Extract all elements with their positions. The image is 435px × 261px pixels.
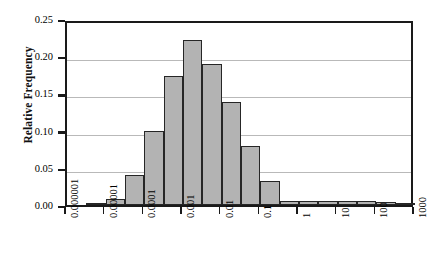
- histogram-bar: [396, 203, 415, 205]
- y-axis-tick: [58, 169, 65, 171]
- histogram-bar: [202, 64, 221, 205]
- y-axis-tick-label: 0.20: [0, 51, 53, 62]
- histogram-bar: [260, 181, 279, 205]
- y-axis-tick: [58, 94, 65, 96]
- x-axis-tick: [335, 207, 337, 214]
- x-axis-tick: [142, 207, 144, 214]
- x-axis-tick-label: 0.001: [185, 194, 196, 218]
- histogram-bar: [241, 146, 260, 205]
- x-axis-tick: [258, 207, 260, 214]
- y-axis-tick: [58, 131, 65, 133]
- y-axis-tick-label: 0.25: [0, 14, 53, 25]
- x-axis-tick: [64, 207, 66, 214]
- x-axis-tick-label: 0.00001: [108, 184, 119, 218]
- histogram-bar: [280, 201, 299, 205]
- histogram-bar: [299, 201, 318, 205]
- histogram-bar: [222, 102, 241, 205]
- y-axis-tick-label: 0.15: [0, 88, 53, 99]
- x-axis-tick: [103, 207, 105, 214]
- x-axis-tick-label: 100: [378, 202, 389, 218]
- x-axis-tick-label: 0.01: [224, 200, 235, 218]
- y-axis-tick-label: 0.05: [0, 163, 53, 174]
- x-axis-tick: [180, 207, 182, 214]
- x-axis-tick: [296, 207, 298, 214]
- x-axis-tick-label: 1000: [417, 197, 428, 218]
- y-axis-tick: [58, 57, 65, 59]
- y-axis-tick: [58, 20, 65, 22]
- histogram-bar: [183, 40, 202, 205]
- histogram-bar: [318, 201, 337, 205]
- histogram-bar: [86, 203, 105, 205]
- histogram-bar: [357, 201, 376, 205]
- histogram-figure: Relative Frequency 0.000.050.100.150.200…: [0, 0, 435, 261]
- x-axis-tick-label: 0.000001: [69, 179, 80, 218]
- x-axis-tick: [412, 207, 414, 214]
- histogram-bar: [338, 201, 357, 205]
- x-axis-tick-label: 0.1: [262, 205, 273, 218]
- histogram-bar: [125, 175, 144, 205]
- plot-area: [65, 21, 413, 207]
- x-axis-tick: [374, 207, 376, 214]
- x-axis-tick-label: 0.0001: [146, 189, 157, 218]
- x-axis-tick-label: 1: [301, 213, 312, 218]
- x-axis-tick-label: 10: [340, 208, 351, 219]
- histogram-bar: [164, 76, 183, 205]
- x-axis-tick: [219, 207, 221, 214]
- y-axis-tick-label: 0.10: [0, 126, 53, 137]
- y-axis-tick-label: 0.00: [0, 200, 53, 211]
- histogram-bars: [67, 23, 411, 205]
